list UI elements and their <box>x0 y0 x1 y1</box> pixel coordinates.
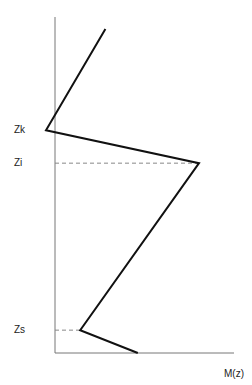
level-label-zk: Zk <box>14 124 26 135</box>
level-label-zs: Zs <box>14 324 25 335</box>
x-axis-label: M(z) <box>224 368 244 379</box>
level-label-zi: Zi <box>14 157 22 168</box>
profile-line <box>46 29 199 353</box>
profile-diagram: ZkZiZsM(z) <box>0 0 252 385</box>
